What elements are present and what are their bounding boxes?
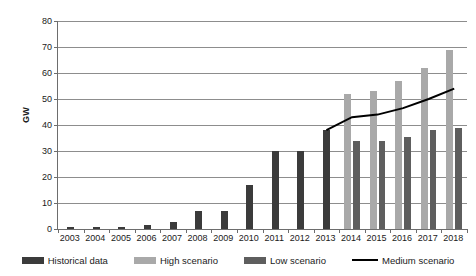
legend-label: High scenario bbox=[160, 255, 218, 266]
chart-figure: GW 01020304050607080 2003200420052006200… bbox=[0, 0, 476, 276]
x-axis-tick-label: 2018 bbox=[443, 233, 463, 244]
medium-scenario-line-layer bbox=[58, 21, 467, 229]
legend-swatch-line-swatch bbox=[352, 259, 378, 261]
legend-item[interactable]: Low scenario bbox=[244, 255, 326, 266]
x-axis-tick-labels: 2003200420052006200720082009201020112012… bbox=[57, 233, 466, 247]
x-axis-tick-label: 2011 bbox=[265, 233, 284, 244]
x-axis-tick-label: 2006 bbox=[136, 233, 156, 244]
x-axis-tick-label: 2016 bbox=[392, 233, 412, 244]
x-axis-tick-mark bbox=[467, 229, 468, 233]
y-axis-tick-label: 10 bbox=[42, 199, 52, 208]
x-axis-tick-label: 2004 bbox=[85, 233, 105, 244]
plot-wrapper: GW 01020304050607080 2003200420052006200… bbox=[0, 0, 476, 248]
legend-item[interactable]: Medium scenario bbox=[352, 255, 454, 266]
y-axis-tick-label: 60 bbox=[42, 69, 52, 78]
x-axis-tick-label: 2009 bbox=[213, 233, 233, 244]
y-axis-tick-labels: 01020304050607080 bbox=[28, 0, 52, 248]
legend-label: Medium scenario bbox=[382, 255, 454, 266]
y-axis-tick-label: 40 bbox=[42, 121, 52, 130]
chart-legend: Historical dataHigh scenarioLow scenario… bbox=[0, 252, 476, 268]
x-axis-tick-label: 2012 bbox=[290, 233, 310, 244]
y-axis-tick-label: 20 bbox=[42, 173, 52, 182]
legend-swatch-bar-swatch-light bbox=[134, 257, 156, 264]
x-axis-tick-label: 2017 bbox=[418, 233, 438, 244]
legend-item[interactable]: High scenario bbox=[134, 255, 218, 266]
x-axis-tick-label: 2007 bbox=[162, 233, 182, 244]
y-axis-tick-label: 80 bbox=[42, 17, 52, 26]
x-axis-tick-label: 2005 bbox=[111, 233, 131, 244]
x-axis-tick-label: 2014 bbox=[341, 233, 361, 244]
legend-label: Historical data bbox=[48, 255, 108, 266]
x-axis-tick-label: 2013 bbox=[315, 233, 335, 244]
y-axis-tick-label: 50 bbox=[42, 95, 52, 104]
x-axis-tick-label: 2003 bbox=[60, 233, 80, 244]
y-axis-tick-label: 70 bbox=[42, 43, 52, 52]
y-axis-tick-label: 30 bbox=[42, 147, 52, 156]
x-axis-tick-label: 2008 bbox=[188, 233, 208, 244]
legend-swatch-bar-swatch-medium bbox=[244, 257, 266, 264]
legend-label: Low scenario bbox=[270, 255, 326, 266]
y-axis-tick-label: 0 bbox=[47, 225, 52, 234]
legend-item[interactable]: Historical data bbox=[22, 255, 108, 266]
medium-scenario-line bbox=[326, 89, 454, 131]
x-axis-tick-label: 2010 bbox=[239, 233, 259, 244]
plot-area bbox=[57, 21, 467, 230]
legend-swatch-bar-swatch-dark bbox=[22, 257, 44, 264]
x-axis-tick-label: 2015 bbox=[367, 233, 387, 244]
